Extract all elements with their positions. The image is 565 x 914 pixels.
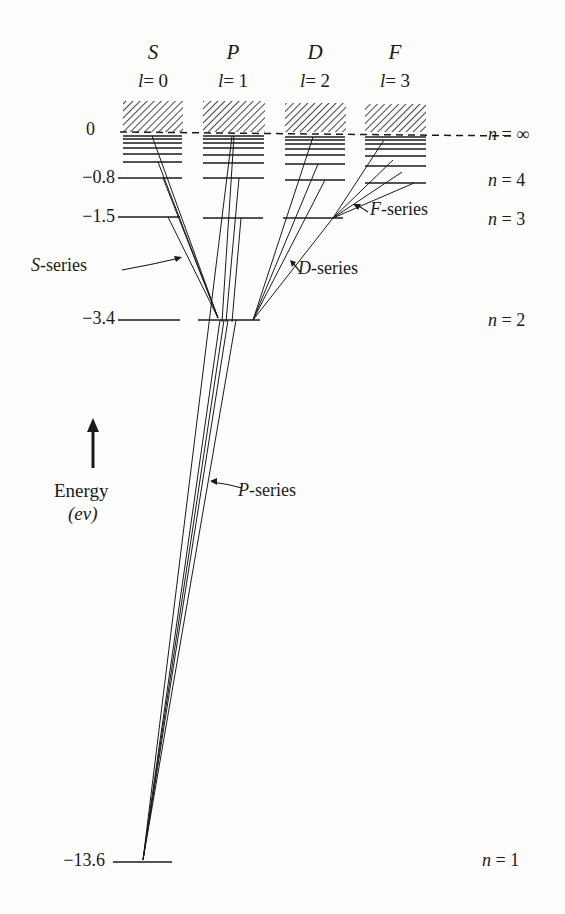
n-2-label: n = 2	[488, 310, 525, 331]
callout-arrows	[122, 205, 368, 488]
up-arrow-icon	[87, 418, 99, 468]
energy-tick-0-8: −0.8	[35, 167, 115, 188]
n-1-label: n = 1	[482, 850, 519, 871]
s-series-label: S-series	[31, 255, 87, 276]
column-l-f: l= 3	[365, 70, 425, 92]
energy-tick-3-4: −3.4	[35, 308, 115, 329]
column-l-d: l= 2	[285, 70, 345, 92]
energy-tick-1-5: −1.5	[35, 206, 115, 227]
continuum-hatching	[123, 101, 426, 132]
energy-tick-0: 0	[15, 119, 95, 140]
n-3-label: n = 3	[488, 209, 525, 230]
column-l-s: l= 0	[123, 70, 183, 92]
column-letter-s: S	[123, 40, 183, 65]
column-letter-p: P	[203, 40, 263, 65]
p-series-label: P-series	[238, 480, 296, 501]
energy-axis-unit: (ev)	[68, 503, 98, 525]
f-series-label: F-series	[370, 199, 428, 220]
energy-tick-13-6: −13.6	[25, 850, 105, 871]
energy-axis-label: Energy	[54, 480, 109, 502]
n-infinity-label: n = ∞	[488, 124, 529, 145]
column-l-p: l= 1	[203, 70, 263, 92]
column-letter-d: D	[285, 40, 345, 65]
s-series-callout	[122, 258, 180, 270]
d-series-label: D-series	[298, 258, 358, 279]
column-letter-f: F	[365, 40, 425, 65]
n-4-label: n = 4	[488, 170, 525, 191]
